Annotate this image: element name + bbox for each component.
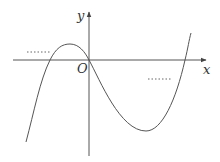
x-axis-label: x [203,62,211,77]
cubic-curve [26,33,191,142]
y-axis-label: y [76,8,85,23]
origin-label: O [77,61,88,76]
cubic-function-graph: y O x [0,0,220,162]
